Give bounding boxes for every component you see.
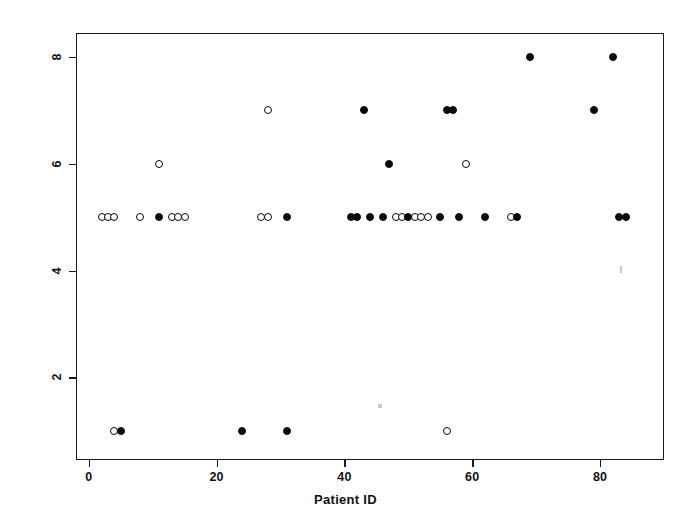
data-point-filled-circle xyxy=(404,213,412,221)
x-tick-label: 20 xyxy=(209,470,223,484)
x-tick-label: 80 xyxy=(593,470,607,484)
y-tick-label: 8 xyxy=(50,46,64,68)
scatter-plot: 020406080 2468 Patient ID Type Classific… xyxy=(0,0,691,526)
data-point-open-circle xyxy=(462,160,470,168)
y-tick-label: 4 xyxy=(50,260,64,282)
data-point-filled-circle xyxy=(513,213,521,221)
data-point-open-circle xyxy=(181,213,189,221)
data-point-filled-circle xyxy=(385,160,393,168)
data-point-open-circle xyxy=(136,213,144,221)
data-point-filled-circle xyxy=(590,106,598,114)
data-point-open-circle xyxy=(424,213,432,221)
scan-artifact xyxy=(378,404,382,408)
y-tick-label: 6 xyxy=(50,153,64,175)
data-point-filled-circle xyxy=(622,213,630,221)
data-point-filled-circle xyxy=(360,106,368,114)
x-tick-label: 0 xyxy=(85,470,92,484)
x-tick-label: 40 xyxy=(337,470,351,484)
plot-frame xyxy=(76,33,664,460)
data-point-filled-circle xyxy=(609,53,617,61)
data-point-filled-circle xyxy=(283,213,291,221)
data-point-filled-circle xyxy=(366,213,374,221)
data-point-filled-circle xyxy=(155,213,163,221)
data-point-open-circle xyxy=(110,213,118,221)
x-tick xyxy=(472,460,473,467)
data-point-filled-circle xyxy=(455,213,463,221)
data-point-filled-circle xyxy=(238,427,246,435)
data-point-filled-circle xyxy=(481,213,489,221)
y-tick xyxy=(69,377,76,378)
data-point-open-circle xyxy=(264,213,272,221)
x-tick xyxy=(89,460,90,467)
data-point-open-circle xyxy=(443,427,451,435)
y-tick xyxy=(69,271,76,272)
y-tick xyxy=(69,164,76,165)
data-point-filled-circle xyxy=(353,213,361,221)
y-tick xyxy=(69,57,76,58)
x-axis-title: Patient ID xyxy=(0,492,691,507)
data-point-filled-circle xyxy=(449,106,457,114)
y-tick-label: 2 xyxy=(50,366,64,388)
data-point-open-circle xyxy=(264,106,272,114)
data-point-filled-circle xyxy=(436,213,444,221)
x-tick xyxy=(600,460,601,467)
data-point-open-circle xyxy=(155,160,163,168)
data-point-filled-circle xyxy=(379,213,387,221)
scan-artifact xyxy=(620,266,622,273)
x-tick xyxy=(344,460,345,467)
data-point-filled-circle xyxy=(526,53,534,61)
data-point-filled-circle xyxy=(117,427,125,435)
x-tick-label: 60 xyxy=(465,470,479,484)
x-tick xyxy=(217,460,218,467)
data-point-filled-circle xyxy=(283,427,291,435)
